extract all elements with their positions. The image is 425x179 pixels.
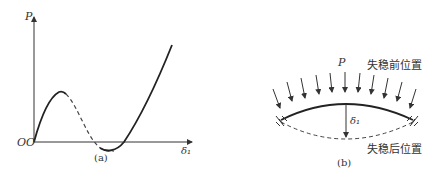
caption-b: (b): [337, 157, 351, 168]
deflection-label: δ₁: [350, 115, 360, 126]
figure-b-arch: [273, 72, 418, 139]
before-buckling-label: 失稳前位置: [367, 56, 422, 72]
x-axis-label: δ₁: [181, 145, 191, 156]
arch-after: [281, 122, 413, 139]
caption-a: (a): [94, 152, 108, 163]
curve-stable-post: [100, 45, 172, 150]
curve-stable-rising: [34, 92, 66, 142]
arch-before: [281, 104, 413, 120]
diagram-canvas: [0, 0, 425, 179]
origin-label: OO: [17, 136, 35, 149]
y-axis-label: P: [25, 10, 32, 23]
curve-unstable-dashed: [66, 94, 114, 151]
figure-a-plot: [34, 17, 192, 151]
after-buckling-label: 失稳后位置: [367, 140, 422, 156]
load-arrows: [273, 72, 416, 108]
load-label: P: [338, 56, 345, 69]
